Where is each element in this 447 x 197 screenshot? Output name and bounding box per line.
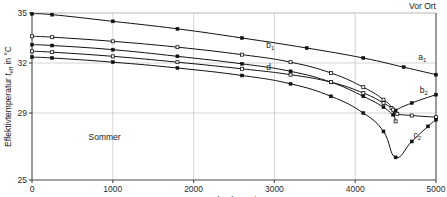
sommer-label: Sommer	[89, 132, 121, 142]
marker-b1-2	[111, 40, 114, 43]
gridlines	[32, 13, 436, 180]
marker-b1-6	[329, 72, 332, 75]
marker-d-5	[289, 73, 292, 76]
marker-d-2	[111, 55, 114, 58]
marker-c2-0	[31, 56, 34, 59]
series-label-d: d	[266, 62, 271, 72]
marker-c2-1	[51, 57, 54, 60]
marker-b2-1	[51, 44, 54, 47]
x-tick-label-4000: 4000	[346, 184, 365, 194]
marker-a1-7	[402, 66, 405, 69]
marker-b2-0	[31, 43, 34, 46]
marker-a1-8	[435, 73, 438, 76]
axis-frame	[32, 13, 436, 180]
marker-c2-6	[329, 95, 332, 98]
series-label-a1: a1	[418, 52, 427, 63]
x-axis-title: Streckenlänge in m	[198, 195, 271, 197]
marker-d-9	[392, 108, 395, 111]
marker-d-0	[31, 50, 34, 53]
x-tick-label-1000: 1000	[103, 184, 122, 194]
series-label-b1: b1	[266, 40, 275, 51]
x-tick-label-2000: 2000	[184, 184, 203, 194]
marker-c2-4	[241, 74, 244, 77]
marker-a1-2	[111, 20, 114, 23]
marker-c2-3	[176, 67, 179, 70]
curve-d	[32, 51, 436, 117]
marker-b2-5	[289, 70, 292, 73]
marker-d-7	[362, 92, 365, 95]
marker-b2-12	[435, 93, 438, 96]
x-tick-label-5000: 5000	[427, 184, 446, 194]
y-tick-label-35: 35	[18, 8, 28, 18]
marker-b1-0	[31, 35, 34, 38]
marker-c2-5	[289, 82, 292, 85]
marker-b1-10	[394, 120, 397, 123]
marker-d-3	[176, 61, 179, 64]
marker-d-6	[329, 81, 332, 84]
marker-b1-1	[51, 36, 54, 39]
marker-d-4	[241, 67, 244, 70]
marker-b2-8	[382, 106, 385, 109]
marker-c2-12	[435, 118, 438, 121]
effective-temperature-chart: 010002000300040005000 25293235 a1b1b2dc2…	[0, 0, 447, 197]
x-tick-label-3000: 3000	[265, 184, 284, 194]
marker-c2-7	[362, 112, 365, 115]
marker-a1-1	[51, 13, 54, 16]
x-axis-tick-labels: 010002000300040005000	[30, 184, 446, 194]
marker-c2-9	[394, 156, 397, 159]
curve-c2	[32, 57, 436, 158]
x-tick-label-0: 0	[30, 184, 35, 194]
y-axis-tick-labels: 25293235	[18, 8, 28, 185]
chart-canvas: 010002000300040005000 25293235 a1b1b2dc2…	[0, 0, 447, 197]
curve-b1	[32, 36, 396, 121]
curve-a1	[32, 14, 436, 75]
y-tick-label-29: 29	[18, 108, 28, 118]
marker-a1-4	[241, 37, 244, 40]
y-tick-label-32: 32	[18, 58, 28, 68]
marker-b1-5	[289, 61, 292, 64]
series-label-c2: c2	[413, 130, 421, 141]
marker-a1-5	[305, 47, 308, 50]
marker-c2-10	[410, 140, 413, 143]
marker-b1-3	[176, 46, 179, 49]
marker-b2-9	[392, 113, 395, 116]
marker-b2-4	[241, 62, 244, 65]
marker-d-8	[382, 102, 385, 105]
vor-ort-label: Vor Ort	[409, 1, 437, 11]
y-axis-title: Effektivtemperatur teff in °C	[3, 46, 14, 147]
axis-titles: Streckenlänge in mEffektivtemperatur tef…	[3, 46, 270, 197]
marker-c2-2	[111, 61, 114, 64]
marker-d-11	[410, 114, 413, 117]
marker-b2-3	[176, 55, 179, 58]
marker-c2-11	[426, 125, 429, 128]
marker-b2-7	[362, 95, 365, 98]
y-tick-label-25: 25	[18, 175, 28, 185]
marker-a1-6	[362, 57, 365, 60]
marker-b2-2	[111, 48, 114, 51]
marker-a1-3	[176, 27, 179, 30]
marker-c2-8	[382, 130, 385, 133]
marker-b1-4	[241, 53, 244, 56]
marker-b1-7	[362, 86, 365, 89]
marker-b2-11	[410, 102, 413, 105]
series-label-b2: b2	[420, 85, 429, 96]
marker-d-1	[51, 51, 54, 54]
marker-a1-0	[31, 12, 34, 15]
marker-d-10	[396, 112, 399, 115]
marker-b1-8	[382, 98, 385, 101]
